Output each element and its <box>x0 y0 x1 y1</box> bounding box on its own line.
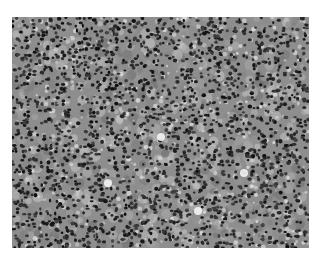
micrograph-image <box>12 17 309 248</box>
cell-texture <box>12 17 309 248</box>
